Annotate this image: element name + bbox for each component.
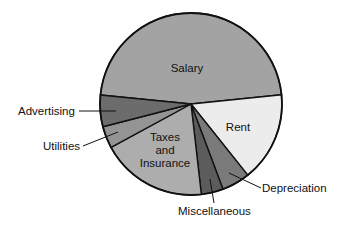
rent-label: Rent (226, 121, 251, 133)
miscellaneous-label: Miscellaneous (178, 205, 251, 217)
taxes-label-line2: and (155, 144, 174, 156)
pie-slices (100, 13, 282, 195)
pie-chart: Salary Rent Taxes and Insurance Advertis… (0, 0, 347, 227)
depreciation-label: Depreciation (262, 182, 327, 194)
advertising-label: Advertising (18, 105, 75, 117)
taxes-label-line1: Taxes (150, 131, 180, 143)
taxes-label-line3: Insurance (140, 157, 191, 169)
salary-label: Salary (171, 62, 204, 74)
pie-slice-salary (100, 13, 281, 104)
utilities-label: Utilities (43, 140, 80, 152)
